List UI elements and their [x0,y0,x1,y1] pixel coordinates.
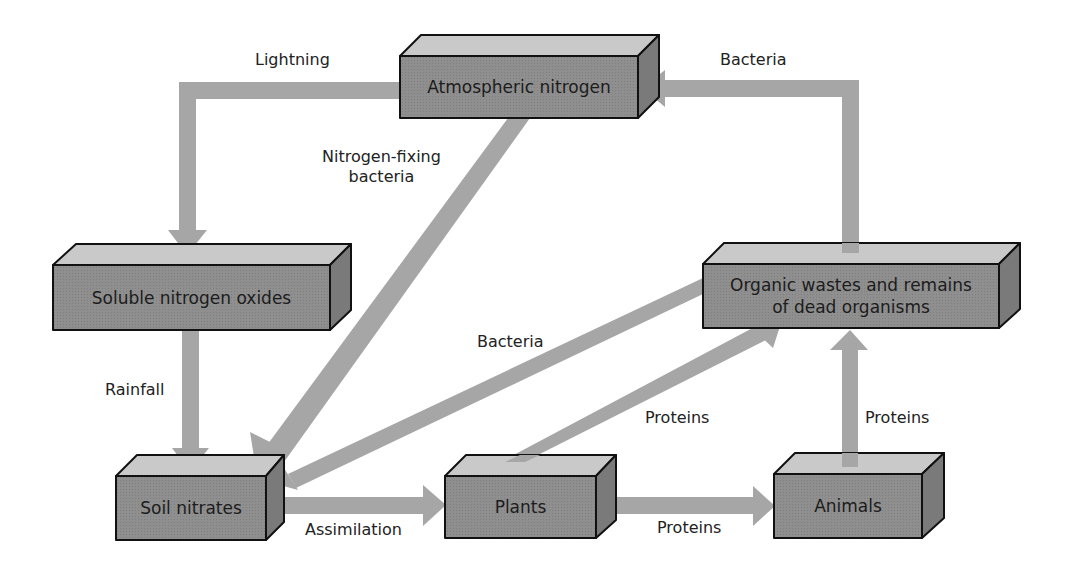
node-label-atmospheric: Atmospheric nitrogen [400,56,638,118]
edge-label-lightning: Lightning [255,50,330,70]
node-label-animals: Animals [774,474,922,538]
node-label-soluble: Soluble nitrogen oxides [53,265,330,330]
arrow-stub-organic-top [842,243,859,253]
edge-label-proteins-animals: Proteins [657,518,721,538]
arrow-rainfall [172,330,209,472]
edge-label-bacteria-top: Bacteria [720,50,787,70]
node-label-organic: Organic wastes and remains of dead organ… [703,264,999,328]
arrow-proteins-animals-organic [830,330,868,466]
node-label-plants: Plants [445,476,596,538]
arrow-proteins-plants-organic [508,320,782,463]
edge-label-assimilation: Assimilation [305,520,402,540]
edge-label-proteins-plants-organic: Proteins [645,408,709,428]
edge-label-bacteria-soil: Bacteria [477,332,544,352]
arrow-bacteria-to-atmosphere [642,70,859,252]
edge-label-proteins-animals-organic: Proteins [865,408,929,428]
edge-label-rainfall: Rainfall [105,380,164,400]
node-label-soil: Soil nitrates [116,476,266,540]
edge-label-nitrogen-fixing: Nitrogen-fixing bacteria [322,147,441,187]
arrow-stub-animals-top [842,453,858,467]
